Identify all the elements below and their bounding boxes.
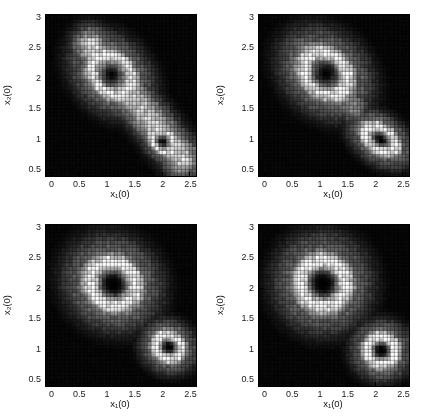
y-tick-mark bbox=[259, 169, 263, 170]
y-tick-mark bbox=[46, 349, 50, 350]
y-axis-label-wrap-top-right: x₂(0) bbox=[227, 0, 228, 175]
x-tick-mark bbox=[264, 172, 265, 176]
y-tick-mark bbox=[259, 318, 263, 319]
panel-bottom-right: 00.511.522.50.511.522.53 x₁(0) x₂(0) bbox=[213, 210, 425, 420]
y-tick-mark bbox=[259, 139, 263, 140]
y-axis-label-wrap-bottom-right: x₂(0) bbox=[227, 210, 228, 385]
y-tick-mark bbox=[46, 257, 50, 258]
y-tick-mark bbox=[259, 78, 263, 79]
x-tick-mark bbox=[134, 172, 135, 176]
x-tick-mark bbox=[264, 382, 265, 386]
x-axis-label-bottom-right: x₁(0) bbox=[258, 398, 408, 409]
x-tick-mark bbox=[291, 172, 292, 176]
y-axis-label-wrap-bottom-left: x₂(0) bbox=[14, 210, 15, 385]
y-tick-mark bbox=[259, 17, 263, 18]
x-axis-label-bottom-left: x₁(0) bbox=[45, 398, 195, 409]
y-tick-mark bbox=[46, 17, 50, 18]
x-tick-mark bbox=[106, 382, 107, 386]
x-tick-mark bbox=[78, 172, 79, 176]
y-axis-label-bottom-left: x₂(0) bbox=[1, 275, 12, 335]
panel-bottom-left: 00.511.522.50.511.522.53 x₁(0) x₂(0) bbox=[0, 210, 212, 420]
x-tick-mark bbox=[162, 382, 163, 386]
heatmap-bottom-left bbox=[46, 225, 196, 386]
x-tick-mark bbox=[402, 172, 403, 176]
y-axis-label-bottom-right: x₂(0) bbox=[214, 275, 225, 335]
heatmap-top-right bbox=[259, 15, 409, 176]
y-tick-mark bbox=[259, 349, 263, 350]
y-tick-mark bbox=[259, 379, 263, 380]
x-tick-mark bbox=[291, 382, 292, 386]
x-tick-mark bbox=[51, 382, 52, 386]
plot-area-top-right[interactable] bbox=[258, 14, 410, 177]
x-tick-mark bbox=[347, 382, 348, 386]
x-tick-mark bbox=[134, 382, 135, 386]
y-axis-label-top-right: x₂(0) bbox=[214, 65, 225, 125]
panel-top-right: 00.511.522.50.511.522.53 x₁(0) x₂(0) bbox=[213, 0, 425, 210]
x-tick-mark bbox=[375, 172, 376, 176]
x-tick-mark bbox=[402, 382, 403, 386]
y-tick-mark bbox=[46, 78, 50, 79]
x-tick-mark bbox=[162, 172, 163, 176]
y-tick-mark bbox=[46, 47, 50, 48]
x-axis-label-top-left: x₁(0) bbox=[45, 188, 195, 199]
y-tick-mark bbox=[259, 257, 263, 258]
y-axis-label-top-left: x₂(0) bbox=[1, 65, 12, 125]
x-tick-mark bbox=[189, 172, 190, 176]
x-tick-mark bbox=[319, 382, 320, 386]
y-tick-mark bbox=[259, 227, 263, 228]
y-tick-mark bbox=[46, 108, 50, 109]
heatmap-top-left bbox=[46, 15, 196, 176]
x-tick-mark bbox=[51, 172, 52, 176]
y-tick-mark bbox=[46, 139, 50, 140]
plot-area-bottom-left[interactable] bbox=[45, 224, 197, 387]
heatmap-bottom-right bbox=[259, 225, 409, 386]
y-tick-mark bbox=[259, 47, 263, 48]
y-axis-label-wrap-top-left: x₂(0) bbox=[14, 0, 15, 175]
y-tick-mark bbox=[259, 288, 263, 289]
y-tick-mark bbox=[46, 318, 50, 319]
plot-area-top-left[interactable] bbox=[45, 14, 197, 177]
plot-area-bottom-right[interactable] bbox=[258, 224, 410, 387]
y-tick-mark bbox=[46, 227, 50, 228]
y-tick-mark bbox=[46, 169, 50, 170]
x-tick-mark bbox=[189, 382, 190, 386]
y-tick-mark bbox=[259, 108, 263, 109]
x-axis-label-top-right: x₁(0) bbox=[258, 188, 408, 199]
x-tick-mark bbox=[319, 172, 320, 176]
y-tick-mark bbox=[46, 288, 50, 289]
x-tick-mark bbox=[78, 382, 79, 386]
x-tick-mark bbox=[375, 382, 376, 386]
x-tick-mark bbox=[106, 172, 107, 176]
panel-top-left: 00.511.522.50.511.522.53 x₁(0) x₂(0) bbox=[0, 0, 212, 210]
y-tick-mark bbox=[46, 379, 50, 380]
figure-canvas: 00.511.522.50.511.522.53 x₁(0) x₂(0) 00.… bbox=[0, 0, 425, 420]
x-tick-mark bbox=[347, 172, 348, 176]
